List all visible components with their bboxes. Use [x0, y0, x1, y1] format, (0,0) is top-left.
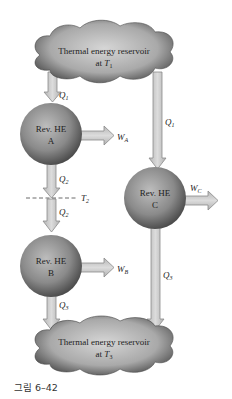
heat-engine-c: Rev. HE C — [124, 167, 186, 229]
q3-label-right: Q3 — [163, 270, 173, 281]
q2-label-upper: Q2 — [59, 174, 69, 185]
q3-label-left: Q3 — [59, 300, 69, 311]
reservoir-t3: Thermal energy reservoir at T3 — [35, 316, 173, 375]
heat-arrow-q2-upper — [43, 162, 60, 198]
wa-label: WA — [117, 132, 129, 143]
engine-a-label-line2: A — [48, 136, 55, 146]
work-arrow-b — [78, 258, 114, 277]
heat-engine-diagram: Thermal energy reservoir at T1 Thermal e… — [0, 0, 232, 399]
engine-c-label-line2: C — [152, 200, 158, 210]
heat-engine-a: Rev. HE A — [20, 103, 82, 165]
reservoir-t1: Thermal energy reservoir at T1 — [35, 20, 173, 83]
engine-b-label-line1: Rev. HE — [36, 256, 67, 266]
work-arrow-a — [78, 126, 114, 145]
heat-arrow-q2-lower — [43, 199, 60, 232]
wb-label: WB — [117, 264, 129, 275]
reservoir-t3-label-line1: Thermal energy reservoir — [58, 337, 149, 347]
engine-b-label-line2: B — [48, 268, 54, 278]
engine-c-label-line1: Rev. HE — [140, 188, 171, 198]
wc-label: WC — [190, 183, 203, 194]
figure-caption: 그림 6–42 — [14, 380, 58, 394]
q1-label-left: Q1 — [59, 90, 69, 101]
engine-a-label-line1: Rev. HE — [36, 124, 67, 134]
q2-label-lower: Q2 — [59, 207, 69, 218]
heat-arrow-q1-to-c — [149, 72, 166, 169]
heat-arrow-q3-from-c — [147, 222, 164, 330]
t2-label: T2 — [81, 193, 89, 204]
reservoir-t1-label-line1: Thermal energy reservoir — [58, 46, 149, 56]
q1-label-right: Q1 — [165, 117, 175, 128]
heat-engine-b: Rev. HE B — [20, 235, 82, 297]
